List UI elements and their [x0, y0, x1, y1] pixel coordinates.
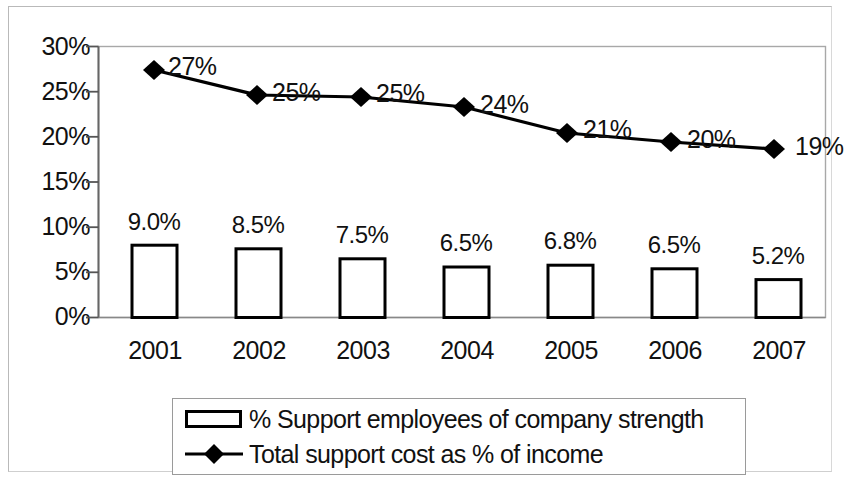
x-tick-label-2003: 2003 [336, 336, 390, 365]
bar-2002 [236, 249, 281, 318]
bar-2007 [756, 280, 801, 318]
bar-data-label-2005: 6.8% [544, 227, 597, 255]
x-tick-label-2001: 2001 [128, 336, 182, 365]
x-tick-label-2006: 2006 [648, 336, 702, 365]
bar-data-label-2004: 6.5% [440, 229, 493, 257]
bar-data-label-2002: 8.5% [232, 211, 285, 239]
marker-2002 [246, 85, 268, 105]
line-diamond-key-icon [183, 441, 245, 467]
x-tick-label-2004: 2004 [440, 336, 494, 365]
bar-data-label-2006: 6.5% [648, 231, 701, 259]
bar-data-label-2007: 5.2% [752, 242, 805, 270]
marker-2005 [556, 123, 578, 143]
bar-2004 [444, 267, 489, 318]
marker-2004 [453, 97, 475, 117]
line-data-label-2006: 20% [687, 125, 736, 154]
line-data-label-2002: 25% [272, 78, 321, 107]
bar-data-label-2001: 9.0% [128, 208, 181, 236]
line-data-label-2004: 24% [480, 90, 529, 119]
legend-item-bar-series[interactable]: % Support employees of company strength [183, 402, 704, 436]
bar-2003 [340, 259, 385, 318]
bar-2005 [548, 265, 593, 317]
bar-data-label-2003: 7.5% [336, 221, 389, 249]
x-axis-labels: 2001 2002 2003 2004 2005 2006 2007 [0, 330, 837, 372]
bar-2001 [132, 245, 177, 317]
line-data-label-2003: 25% [376, 79, 425, 108]
chart-legend: % Support employees of company strength … [172, 398, 746, 475]
legend-label-bar-series: % Support employees of company strength [249, 405, 704, 434]
x-tick-label-2005: 2005 [544, 336, 598, 365]
line-data-label-2001: 27% [168, 52, 217, 81]
legend-label-line-series: Total support cost as % of income [249, 440, 603, 469]
x-tick-label-2007: 2007 [752, 336, 806, 365]
line-data-label-2007: 19% [795, 132, 844, 161]
open-rectangle-key-icon [183, 406, 245, 432]
y-axis-ticks [86, 47, 99, 318]
x-tick-label-2002: 2002 [232, 336, 286, 365]
marker-2006 [660, 132, 682, 152]
legend-item-line-series[interactable]: Total support cost as % of income [183, 437, 603, 471]
bar-2006 [652, 269, 697, 318]
line-data-label-2005: 21% [583, 115, 632, 144]
marker-2001 [143, 60, 165, 80]
marker-2003 [350, 87, 372, 107]
marker-2007 [763, 139, 785, 159]
